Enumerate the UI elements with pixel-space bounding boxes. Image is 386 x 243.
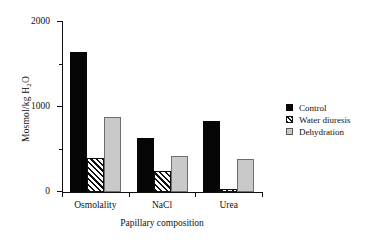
y-axis-line: [62, 22, 63, 192]
x-tick-2: [195, 192, 196, 197]
x-tick-1: [129, 192, 130, 197]
legend-label-dehydration: Dehydration: [299, 127, 344, 137]
bar-nacl-water-diuresis: [154, 171, 171, 192]
bar-urea-water-diuresis: [220, 189, 237, 192]
y-axis-title: Mosmol/kg H2O: [21, 39, 31, 179]
x-category-label-urea: Urea: [219, 200, 237, 210]
x-tick-0: [62, 192, 63, 197]
y-tick-label-1000: 1000: [31, 101, 50, 111]
plot-area: 010002000 OsmolalityNaClUrea: [62, 22, 262, 192]
y-tick-minor-1500: [59, 64, 63, 65]
legend-label-water-diuresis: Water diuresis: [299, 115, 351, 125]
x-tick-3: [262, 192, 263, 197]
legend-item-water-diuresis: Water diuresis: [286, 114, 351, 125]
bar-urea-dehydration: [237, 159, 254, 192]
legend-item-dehydration: Dehydration: [286, 126, 351, 137]
y-axis-title-suffix: O: [21, 76, 31, 83]
y-axis-title-subscript: 2: [25, 83, 33, 87]
y-axis-title-prefix: Mosmol/kg H: [21, 87, 31, 142]
bar-nacl-dehydration: [171, 156, 188, 192]
x-axis-line: [62, 192, 262, 193]
y-tick-major-2000: 2000: [57, 21, 63, 22]
legend-swatch-water-diuresis: [286, 116, 293, 123]
y-tick-label-2000: 2000: [31, 16, 50, 26]
y-tick-major-1000: 1000: [57, 106, 63, 107]
y-tick-label-0: 0: [45, 186, 50, 196]
x-category-label-nacl: NaCl: [152, 200, 172, 210]
legend-item-control: Control: [286, 102, 351, 113]
bar-osmolality-dehydration: [104, 117, 121, 192]
legend-label-control: Control: [299, 103, 327, 113]
bar-chart-figure: Mosmol/kg H2O 010002000 OsmolalityNaClUr…: [0, 0, 386, 243]
bar-urea-control: [203, 121, 220, 192]
y-tick-minor-500: [59, 149, 63, 150]
bar-osmolality-control: [70, 52, 87, 192]
legend-swatch-control: [286, 104, 293, 111]
x-axis-title: Papillary composition: [62, 218, 262, 228]
legend-swatch-dehydration: [286, 128, 293, 135]
bar-nacl-control: [137, 138, 154, 192]
x-category-label-osmolality: Osmolality: [74, 200, 116, 210]
chart-legend: ControlWater diuresisDehydration: [286, 102, 351, 138]
bar-osmolality-water-diuresis: [87, 158, 104, 192]
